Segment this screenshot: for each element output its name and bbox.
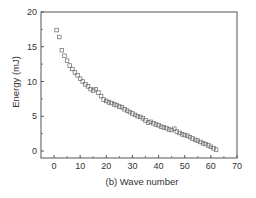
y-tick-label: 0 — [32, 146, 37, 156]
data-point — [206, 144, 210, 148]
x-tick-label: 40 — [154, 161, 164, 171]
data-point — [97, 91, 101, 95]
data-point — [178, 131, 182, 135]
x-tick-label: 10 — [75, 161, 85, 171]
data-point — [60, 48, 64, 52]
data-point — [152, 121, 156, 125]
data-point — [188, 135, 192, 139]
x-tick-label: 50 — [180, 161, 190, 171]
x-tick-label: 30 — [127, 161, 137, 171]
plot-frame — [41, 12, 237, 158]
data-point — [133, 113, 137, 117]
x-tick-label: 70 — [232, 161, 242, 171]
data-point — [94, 87, 98, 91]
y-tick-label: 5 — [32, 111, 37, 121]
data-point — [209, 145, 213, 149]
y-tick-label: 10 — [27, 77, 37, 87]
data-point — [55, 28, 59, 32]
data-point — [191, 137, 195, 141]
data-point — [63, 54, 67, 58]
data-point — [212, 146, 216, 150]
y-tick-label: 20 — [27, 7, 37, 17]
data-point — [57, 35, 61, 39]
y-tick-label: 15 — [27, 42, 37, 52]
data-point — [68, 64, 72, 68]
data-point — [214, 148, 218, 152]
data-point — [125, 109, 129, 113]
x-tick-label: 60 — [206, 161, 216, 171]
data-points — [55, 28, 218, 151]
data-point — [199, 140, 203, 144]
x-tick-label: 20 — [101, 161, 111, 171]
data-point — [99, 94, 103, 98]
y-axis-label: Energy (mJ) — [10, 56, 21, 108]
data-point — [65, 59, 69, 63]
data-point — [71, 67, 75, 71]
x-axis-label: (b) Wave number — [105, 176, 178, 187]
data-point — [91, 89, 95, 93]
data-point — [102, 98, 106, 102]
data-point — [128, 110, 132, 114]
data-point — [104, 99, 108, 103]
x-tick-label: 0 — [51, 161, 56, 171]
energy-scatter-chart: 01020304050607005101520 (b) Wave number … — [0, 0, 256, 198]
data-point — [131, 112, 135, 116]
